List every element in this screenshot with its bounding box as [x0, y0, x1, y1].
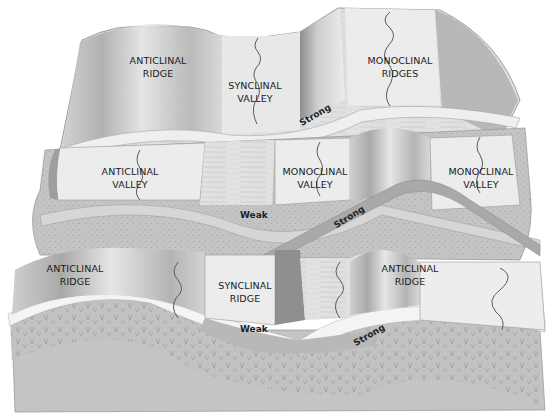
label-anticlinal-ridge-top: ANTICLINAL RIDGE [118, 54, 198, 80]
label-monoclinal-valley-mid-right: MONOCLINAL VALLEY [440, 165, 522, 191]
label-monoclinal-valley-mid-left: MONOCLINAL VALLEY [275, 165, 355, 191]
label-anticlinal-ridge-low-left: ANTICLINAL RIDGE [35, 262, 115, 288]
label-monoclinal-ridges-top: MONOCLINAL RIDGES [355, 54, 445, 80]
folded-strata-block-diagram [0, 0, 557, 418]
label-anticlinal-valley-mid: ANTICLINAL VALLEY [90, 165, 170, 191]
label-weak-layer-mid: Weak [240, 210, 268, 220]
label-anticlinal-ridge-low-right: ANTICLINAL RIDGE [370, 262, 450, 288]
label-synclinal-ridge-low: SYNCLINAL RIDGE [205, 279, 285, 305]
label-synclinal-valley-top: SYNCLINAL VALLEY [215, 79, 295, 105]
label-weak-layer-low: Weak [240, 324, 268, 334]
